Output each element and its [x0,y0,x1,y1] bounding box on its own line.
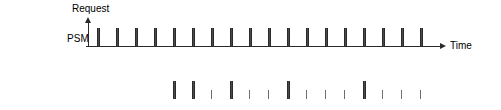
bsd-pulse-6 [287,81,290,99]
bsd-pulse-13 [420,90,421,99]
psm-time-axis-label: Time [450,40,472,51]
bsd-pulse-8 [325,90,326,99]
psm-pulse-14 [363,28,366,46]
psm-pulse-9 [268,28,271,46]
bsd-pulse-5 [268,90,269,99]
psm-pulse-17 [420,28,423,46]
psm-pulse-8 [249,28,252,46]
psm-request-label: Request [72,3,109,14]
psm-pulse-13 [344,28,347,46]
psm-pulse-10 [287,28,290,46]
bsd-pulse-4 [249,90,250,99]
psm-row: Request PSM Time [0,0,501,55]
psm-pulse-5 [192,28,195,46]
bsd-pulse-7 [306,90,307,99]
psm-pulse-15 [382,28,385,46]
timing-diagram-figure: Request PSM Time Request BSD (p = 0.5) T… [0,0,501,110]
bsd-pulse-11 [382,90,383,99]
psm-pulse-0 [97,28,100,46]
psm-row-label: PSM [67,33,89,44]
psm-pulse-2 [135,28,138,46]
psm-pulse-3 [154,28,157,46]
bsd-pulse-12 [401,90,402,99]
bsd-pulse-10 [363,81,366,99]
bsd-pulse-1 [192,81,195,99]
bsd-pulse-2 [211,90,212,99]
psm-pulse-1 [116,28,119,46]
psm-pulse-11 [306,28,309,46]
psm-pulse-6 [211,28,214,46]
psm-pulse-4 [173,28,176,46]
psm-pulse-12 [325,28,328,46]
bsd-pulse-9 [344,90,345,99]
bsd-pulse-3 [230,81,233,99]
psm-pulse-16 [401,28,404,46]
bsd-row: Request BSD (p = 0.5) Time [0,55,501,110]
psm-pulse-7 [230,28,233,46]
psm-time-axis-arrow-icon [440,43,446,49]
bsd-pulse-0 [173,81,176,99]
psm-time-axis [86,46,440,47]
